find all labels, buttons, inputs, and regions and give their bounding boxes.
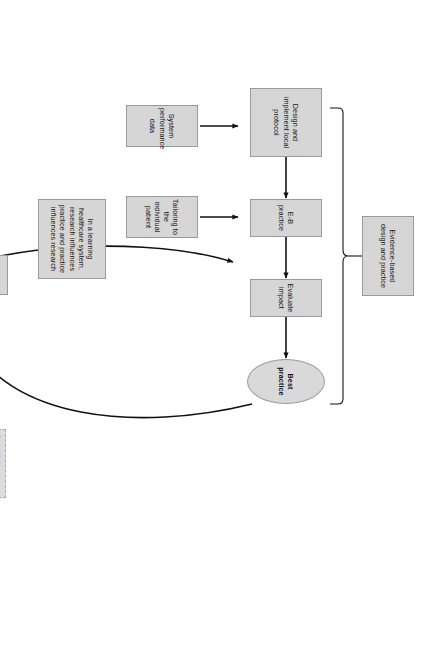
brace-top — [330, 108, 348, 404]
connector-layer — [0, 0, 438, 666]
node-tailoring-individual-patient[interactable]: Tailoring to the individual patient — [126, 196, 198, 238]
loop-guideline-to-design — [0, 246, 233, 326]
node-eb-practice-label: E-B practice — [277, 202, 295, 234]
node-evidence-based-design[interactable]: Evidence-based design and practice — [362, 216, 414, 296]
diagram-canvas: Evidence-based design and practice Desig… — [0, 0, 438, 666]
node-system-performance-data-label: System performance data — [148, 108, 176, 144]
loop-bestpractice-to-lacking — [0, 338, 252, 418]
node-best-practice-label: Best practice — [277, 362, 295, 401]
node-design-and-implement[interactable]: Design and implement local protocol — [250, 88, 322, 157]
node-evidence-based-design-label: Evidence-based design and practice — [379, 219, 397, 293]
node-evaluate-impact[interactable]: Evaluate impact — [250, 279, 322, 317]
node-expert-opinion[interactable]: Expert opinion — [0, 255, 8, 295]
node-study-types-quantitative: Quantitative studies — [0, 434, 2, 495]
node-tailoring-individual-patient-label: Tailoring to the individual patient — [144, 199, 181, 235]
node-learning-system-note-label: In a learning healthcare system, researc… — [49, 202, 95, 276]
node-system-performance-data[interactable]: System performance data — [126, 105, 198, 147]
node-evaluate-impact-label: Evaluate impact — [277, 282, 295, 314]
node-study-types[interactable]: Quantitative studies Qualitative studies — [0, 429, 6, 498]
node-design-and-implement-label: Design and implement local protocol — [272, 91, 300, 154]
node-learning-system-note: In a learning healthcare system, researc… — [38, 199, 106, 279]
node-eb-practice[interactable]: E-B practice — [250, 199, 322, 237]
node-best-practice[interactable]: Best practice — [247, 359, 325, 404]
